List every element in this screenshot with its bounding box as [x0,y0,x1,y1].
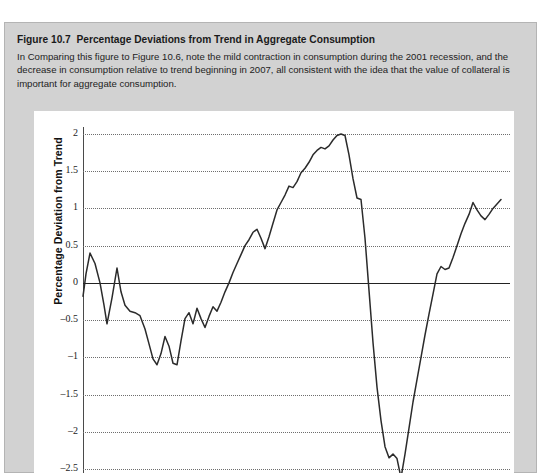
figure-caption-block: Figure 10.7 Percentage Deviations from T… [17,33,523,90]
plot-area [83,134,510,469]
figure-description: In Comparing this figure to Figure 10.6,… [17,50,523,90]
series-line-chart [83,134,510,469]
y-axis-tick-label: –2.5 [38,462,78,473]
figure-title-text: Percentage Deviations from Trend in Aggr… [76,34,375,45]
y-axis-tick-label: –1 [38,350,78,361]
y-axis-title: Percentage Deviation from Trend [52,121,64,321]
series-polyline [83,134,501,473]
y-axis-tick-label: –2 [38,425,78,436]
gridline [83,469,510,470]
y-axis-tick-label: –1.5 [38,388,78,399]
chart-panel: 21.510.50–0.5–1–1.5–2–2.5 Percentage Dev… [34,111,514,473]
figure-container: Figure 10.7 Percentage Deviations from T… [4,22,537,473]
figure-title: Figure 10.7 Percentage Deviations from T… [17,33,523,47]
figure-number: Figure 10.7 [17,34,71,45]
